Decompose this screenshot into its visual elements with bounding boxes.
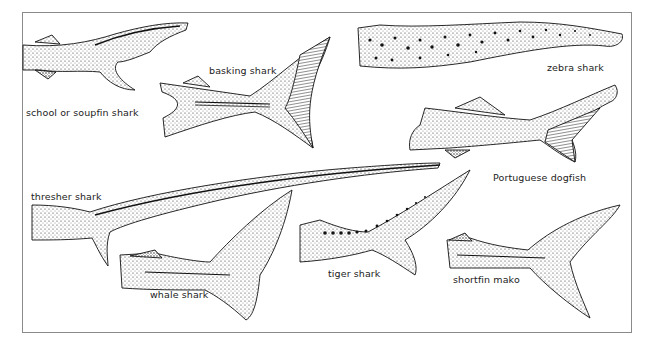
tiger-shark-tail bbox=[300, 170, 470, 275]
portuguese-dogfish-tail bbox=[409, 85, 617, 162]
label-shortfin-mako: shortfin mako bbox=[453, 274, 520, 285]
school-shark-tail bbox=[23, 23, 188, 90]
shortfin-mako-tail bbox=[447, 205, 620, 318]
label-portuguese-dogfish: Portuguese dogfish bbox=[493, 172, 586, 183]
label-tiger-shark: tiger shark bbox=[328, 268, 380, 279]
label-whale-shark: whale shark bbox=[150, 289, 208, 300]
basking-shark-tail bbox=[160, 37, 330, 148]
label-school-shark: school or soupfin shark bbox=[26, 107, 139, 118]
label-zebra-shark: zebra shark bbox=[547, 62, 604, 73]
label-basking-shark: basking shark bbox=[209, 65, 277, 76]
label-thresher-shark: thresher shark bbox=[31, 191, 102, 202]
